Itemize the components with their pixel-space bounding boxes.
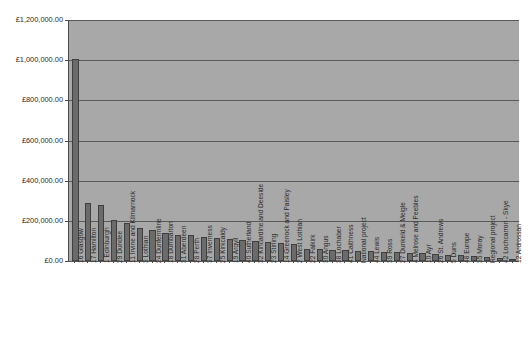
x-tick-label: 29 Dundee bbox=[116, 231, 123, 263]
x-tick-label: 19 Argyll bbox=[232, 238, 239, 263]
x-tick-label: 32 Kincardine and Deeside bbox=[257, 184, 264, 263]
x-tick-mark bbox=[254, 260, 255, 263]
x-tick-mark bbox=[486, 260, 487, 263]
x-tick-mark bbox=[229, 260, 230, 263]
x-tick-label: 25 Kirkcaldy bbox=[219, 227, 226, 263]
x-tick-mark bbox=[473, 260, 474, 263]
x-tick-mark bbox=[512, 260, 513, 263]
x-tick-mark bbox=[370, 260, 371, 263]
x-tick-mark bbox=[139, 260, 140, 263]
x-tick-label: 26 St. Andrews bbox=[437, 219, 444, 263]
x-tick-mark bbox=[203, 260, 204, 263]
y-tick-label: £1,200,000.00 bbox=[16, 16, 63, 24]
x-tick-label: 12 Ardrossan bbox=[515, 224, 522, 263]
y-tick-label: £600,000.00 bbox=[22, 137, 63, 145]
x-tick-label: 23 Stirling bbox=[270, 234, 277, 263]
x-tick-mark bbox=[216, 260, 217, 263]
y-tick-mark bbox=[65, 261, 69, 262]
y-tick-label: £800,000.00 bbox=[22, 96, 63, 104]
x-tick-mark bbox=[242, 260, 243, 263]
x-tick-label: 5 Duns bbox=[450, 242, 457, 263]
x-tick-mark bbox=[422, 260, 423, 263]
x-tick-mark bbox=[409, 260, 410, 263]
x-tick-mark bbox=[267, 260, 268, 263]
x-tick-label: 30 Angus bbox=[322, 236, 329, 264]
x-tick-label: 4 Melrose and Peebles bbox=[412, 196, 419, 263]
x-tick-label: 2 West Lothian bbox=[296, 219, 303, 263]
x-tick-label: 10 Ayr bbox=[425, 244, 432, 263]
x-tick-mark bbox=[332, 260, 333, 263]
x-tick-mark bbox=[447, 260, 448, 263]
x-tick-label: 39 Ross bbox=[386, 239, 393, 263]
x-tick-label: 31 Aberdeen bbox=[180, 226, 187, 263]
x-tick-mark bbox=[499, 260, 500, 263]
x-tick-label: 38 Lochaber bbox=[335, 226, 342, 263]
x-tick-label: 1 Edinburgh bbox=[103, 227, 110, 263]
y-tick-label: £400,000.00 bbox=[22, 177, 63, 185]
y-tick-label: £200,000.00 bbox=[22, 217, 63, 225]
x-tick-mark bbox=[164, 260, 165, 263]
bar-chart: £1,200,000.00£1,000,000.00£800,000.00£60… bbox=[0, 0, 532, 352]
x-tick-mark bbox=[460, 260, 461, 263]
x-tick-mark bbox=[113, 260, 114, 263]
x-tick-label: 18 Dumbarton bbox=[167, 221, 174, 263]
x-tick-mark bbox=[87, 260, 88, 263]
x-tick-label: 24 Dunfermline bbox=[155, 218, 162, 263]
x-tick-mark bbox=[396, 260, 397, 263]
x-tick-label: 17 Hamilton bbox=[90, 228, 97, 263]
x-tick-mark bbox=[293, 260, 294, 263]
x-tick-label: 14 Greenock and Paisley bbox=[283, 189, 290, 263]
x-tick-label: 16 Glasgow bbox=[77, 228, 84, 263]
x-tick-mark bbox=[306, 260, 307, 263]
x-tick-mark bbox=[434, 260, 435, 263]
bars-series bbox=[69, 20, 519, 261]
x-tick-label: 28 Perth bbox=[193, 238, 200, 263]
y-axis: £1,200,000.00£1,000,000.00£800,000.00£60… bbox=[0, 0, 66, 352]
x-tick-label: 11 Irvine and Kilmarnock bbox=[129, 191, 136, 263]
x-tick-label: 22 Falkirk bbox=[309, 234, 316, 263]
y-tick-label: £1,000,000.00 bbox=[16, 56, 63, 64]
x-tick-label: Regional project bbox=[489, 215, 496, 263]
x-tick-label: 44 Lewis bbox=[373, 237, 380, 263]
x-tick-mark bbox=[357, 260, 358, 263]
x-tick-mark bbox=[319, 260, 320, 263]
x-tick-label: 27 Dunkeld & Meigle bbox=[399, 202, 406, 263]
x-axis: 16 Glasgow17 Hamilton1 Edinburgh29 Dunde… bbox=[68, 263, 518, 352]
x-tick-mark bbox=[100, 260, 101, 263]
x-tick-label: 37 Inverness bbox=[206, 225, 213, 263]
x-tick-mark bbox=[74, 260, 75, 263]
x-tick-mark bbox=[280, 260, 281, 263]
x-tick-label: 3 Lothian bbox=[142, 236, 149, 263]
x-tick-label: 48 Europe bbox=[463, 233, 470, 263]
x-tick-mark bbox=[152, 260, 153, 263]
x-tick-mark bbox=[177, 260, 178, 263]
x-tick-mark bbox=[344, 260, 345, 263]
x-tick-label: National project bbox=[360, 217, 367, 263]
x-tick-label: 35 Moray bbox=[476, 236, 483, 264]
x-tick-mark bbox=[190, 260, 191, 263]
x-tick-mark bbox=[126, 260, 127, 263]
x-tick-label: 41 Caithness bbox=[347, 225, 354, 264]
y-tick-label: £0.00 bbox=[45, 257, 64, 265]
x-tick-label: 42 Lochcarron - Skye bbox=[502, 200, 509, 263]
x-tick-label: 40 Sutherland bbox=[245, 222, 252, 263]
x-tick-mark bbox=[383, 260, 384, 263]
